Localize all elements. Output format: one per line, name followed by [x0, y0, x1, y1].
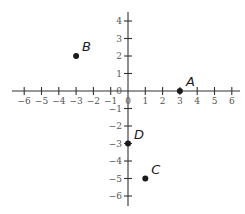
x-ticks: −6−5−4−3−2−10123456	[18, 87, 235, 106]
y-tick-label: −1	[109, 104, 122, 114]
point-marker	[73, 53, 79, 59]
y-tick-label: −3	[109, 139, 123, 149]
point-marker	[142, 176, 148, 182]
x-tick-label: 3	[177, 96, 183, 106]
x-tick-label: 5	[212, 96, 218, 106]
x-tick-label: −2	[87, 96, 100, 106]
x-tick-label: 6	[229, 96, 235, 106]
points: ABCD	[73, 39, 195, 182]
point-label: A	[185, 74, 195, 89]
x-tick-label: −6	[18, 96, 32, 106]
point-label: C	[151, 162, 161, 177]
y-tick-label: −5	[109, 174, 123, 184]
y-tick-label: −6	[109, 191, 123, 201]
x-tick-label: −5	[35, 96, 49, 106]
y-tick-label: −2	[109, 121, 122, 131]
x-tick-label: 2	[160, 96, 166, 106]
point-label: B	[82, 39, 91, 54]
point-label: D	[134, 127, 144, 142]
y-tick-label: −4	[109, 156, 123, 166]
point-c: C	[142, 162, 161, 182]
point-marker	[125, 141, 131, 147]
x-tick-label: 1	[142, 96, 148, 106]
y-tick-label: 2	[116, 51, 122, 61]
coordinate-plane: −6−5−4−3−2−10123456 43210−1−2−3−4−5−6 AB…	[0, 0, 245, 214]
x-tick-label: −3	[69, 96, 83, 106]
y-tick-label: 1	[116, 69, 122, 79]
y-tick-label: 4	[116, 16, 122, 26]
x-tick-label: 0	[125, 96, 131, 106]
y-tick-label: 0	[116, 86, 122, 96]
y-tick-label: 3	[116, 34, 122, 44]
x-tick-label: 4	[194, 96, 200, 106]
point-marker	[177, 88, 183, 94]
point-b: B	[73, 39, 91, 59]
x-tick-label: −4	[52, 96, 66, 106]
